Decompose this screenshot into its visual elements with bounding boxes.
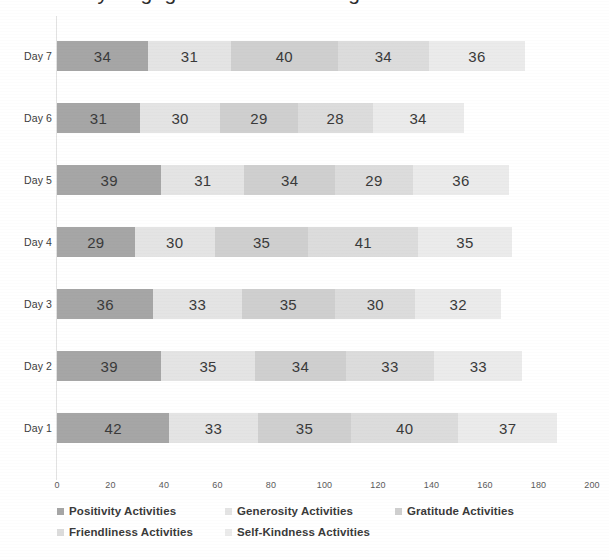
bar-value-label: 34 [409,110,426,127]
bar-value-label: 35 [280,296,297,313]
bar-segment[interactable]: 35 [215,227,309,257]
x-axis-tick-label: 180 [531,480,547,490]
category-label: Day 7 [8,50,52,62]
page-title: Daily Engagement in Wellbeing Practice A… [60,0,535,5]
x-axis-tick-label: 60 [212,480,222,490]
category-label: Day 3 [8,298,52,310]
bar-segment[interactable]: 39 [57,165,161,195]
bar-segment[interactable]: 42 [57,413,169,443]
bar-segment[interactable]: 33 [434,351,522,381]
bar-segment[interactable]: 40 [231,41,338,71]
bar-segment[interactable]: 35 [242,289,336,319]
chart-title-cutoff: Daily Engagement in Wellbeing Practice A… [0,0,609,15]
bar-value-label: 29 [365,172,382,189]
chart-row: Day 53931342936 [0,149,609,211]
bar-value-label: 29 [250,110,267,127]
bar-segment[interactable]: 34 [338,41,429,71]
bar-value-label: 41 [355,234,372,251]
legend-label: Generosity Activities [237,505,353,517]
bar-value-label: 32 [450,296,467,313]
bar-value-label: 35 [253,234,270,251]
bar-value-label: 30 [166,234,183,251]
bar-segment[interactable]: 31 [161,165,244,195]
bar-value-label: 34 [94,48,111,65]
bar-segment[interactable]: 29 [220,103,298,133]
legend-item[interactable]: Positivity Activities [57,505,176,517]
stacked-bar-chart: Daily Engagement in Wellbeing Practice A… [0,0,609,560]
x-axis-tick-label: 20 [105,480,115,490]
bar-value-label: 40 [276,48,293,65]
bar-segment[interactable]: 34 [244,165,335,195]
x-axis: 020406080100120140160180200 [0,480,609,498]
bar-segment[interactable]: 29 [57,227,135,257]
bar-segment[interactable]: 34 [255,351,346,381]
legend-swatch-icon [57,529,64,536]
legend-swatch-icon [225,529,232,536]
bar-segment[interactable]: 34 [373,103,464,133]
bar-segment[interactable]: 33 [153,289,241,319]
legend-swatch-icon [57,508,64,515]
x-axis-tick-label: 80 [266,480,276,490]
bar-segment[interactable]: 31 [148,41,231,71]
bar-segment[interactable]: 39 [57,351,161,381]
bar-value-label: 29 [87,234,104,251]
bar-segment[interactable]: 29 [335,165,413,195]
stacked-bar[interactable]: 3431403436 [57,41,525,71]
chart-row: Day 33633353032 [0,273,609,335]
bar-value-label: 28 [327,110,344,127]
bar-segment[interactable]: 33 [169,413,257,443]
x-axis-tick-label: 40 [159,480,169,490]
bar-value-label: 40 [396,420,413,437]
bar-value-label: 36 [452,172,469,189]
bar-segment[interactable]: 41 [308,227,418,257]
bar-segment[interactable]: 36 [57,289,153,319]
legend-swatch-icon [225,508,232,515]
bar-value-label: 33 [470,358,487,375]
bar-value-label: 30 [171,110,188,127]
stacked-bar[interactable]: 3931342936 [57,165,509,195]
x-axis-tick-label: 160 [477,480,493,490]
bar-value-label: 33 [381,358,398,375]
bar-segment[interactable]: 35 [161,351,255,381]
stacked-bar[interactable]: 2930354135 [57,227,512,257]
bar-value-label: 36 [97,296,114,313]
bar-segment[interactable]: 31 [57,103,140,133]
bar-segment[interactable]: 35 [258,413,352,443]
bar-segment[interactable]: 34 [57,41,148,71]
legend-item[interactable]: Gratitude Activities [395,505,514,517]
x-axis-tick-label: 0 [54,480,59,490]
bar-segment[interactable]: 37 [458,413,557,443]
chart-row: Day 42930354135 [0,211,609,273]
plot-area: Day 73431403436Day 63130292834Day 539313… [0,16,609,480]
bar-value-label: 35 [296,420,313,437]
bar-segment[interactable]: 33 [346,351,434,381]
x-axis-tick-label: 200 [584,480,600,490]
legend-row: Positivity ActivitiesGenerosity Activiti… [0,505,609,526]
bar-value-label: 39 [101,358,118,375]
chart-row: Day 14233354037 [0,397,609,459]
bar-segment[interactable]: 36 [429,41,525,71]
bar-segment[interactable]: 36 [413,165,509,195]
legend-item[interactable]: Generosity Activities [225,505,353,517]
bar-segment[interactable]: 30 [335,289,415,319]
legend-label: Positivity Activities [69,505,176,517]
legend-item[interactable]: Friendliness Activities [57,526,193,538]
bar-value-label: 31 [181,48,198,65]
bar-segment[interactable]: 28 [298,103,373,133]
bar-segment[interactable]: 30 [135,227,215,257]
chart-row: Day 73431403436 [0,25,609,87]
bar-value-label: 34 [375,48,392,65]
bar-value-label: 31 [90,110,107,127]
bar-segment[interactable]: 40 [351,413,458,443]
stacked-bar[interactable]: 3130292834 [57,103,464,133]
bar-segment[interactable]: 35 [418,227,512,257]
bar-segment[interactable]: 32 [415,289,501,319]
legend-item[interactable]: Self-Kindness Activities [225,526,370,538]
bar-value-label: 34 [281,172,298,189]
legend-label: Self-Kindness Activities [237,526,370,538]
bar-value-label: 39 [101,172,118,189]
bar-segment[interactable]: 30 [140,103,220,133]
stacked-bar[interactable]: 3633353032 [57,289,501,319]
stacked-bar[interactable]: 4233354037 [57,413,557,443]
stacked-bar[interactable]: 3935343333 [57,351,522,381]
